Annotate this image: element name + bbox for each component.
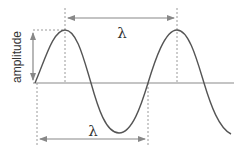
dashed-guides — [33, 8, 177, 146]
amplitude-label: amplitude — [10, 31, 24, 83]
wavelength-top-label: λ — [117, 24, 127, 42]
wave-diagram: amplitude λ λ — [0, 0, 248, 154]
wavelength-bottom-label: λ — [88, 122, 98, 140]
sine-wave — [35, 30, 231, 134]
